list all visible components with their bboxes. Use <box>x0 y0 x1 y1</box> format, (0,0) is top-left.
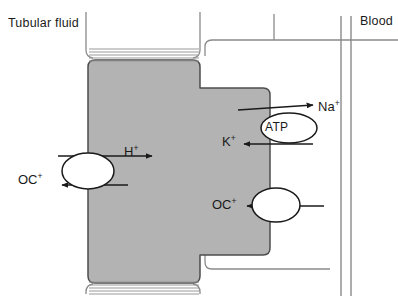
apical-brush-border-bottom <box>89 282 199 294</box>
na-ion-symbol: Na <box>318 99 335 114</box>
oc-apical-symbol: OC <box>18 172 38 187</box>
oc-apical-charge: + <box>38 171 43 181</box>
oc-baso-symbol: OC <box>212 197 232 212</box>
apical-exchanger-oval <box>62 153 114 189</box>
na-ion-charge: + <box>335 98 340 108</box>
diagram-canvas: Tubular fluid Blood ATP H+ OC+ Na+ K+ OC… <box>0 0 398 306</box>
blood-vessel-wall <box>341 16 351 296</box>
oc-basolateral-label: OC+ <box>212 197 236 212</box>
apical-brush-border-top <box>89 49 199 61</box>
epithelial-cell-body <box>88 60 270 283</box>
atp-label: ATP <box>265 120 288 134</box>
oc-apical-label: OC+ <box>18 172 42 187</box>
k-ion-label: K+ <box>222 134 236 149</box>
h-ion-label: H+ <box>124 144 138 159</box>
blood-label: Blood <box>360 14 393 28</box>
h-ion-charge: + <box>133 143 138 153</box>
oc-baso-charge: + <box>232 196 237 206</box>
k-ion-symbol: K <box>222 134 231 149</box>
cell-transport-svg <box>0 0 398 306</box>
basolateral-oc-oval <box>252 188 300 222</box>
tubular-fluid-label: Tubular fluid <box>8 16 79 30</box>
na-ion-label: Na+ <box>318 99 340 114</box>
h-ion-symbol: H <box>124 144 133 159</box>
k-ion-charge: + <box>231 133 236 143</box>
